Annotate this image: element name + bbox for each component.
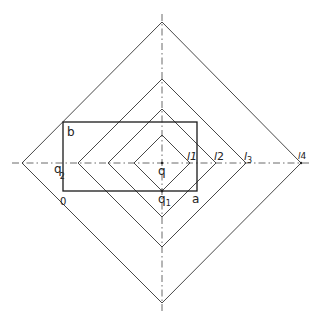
overlay-rectangle <box>63 122 197 191</box>
point-l4 <box>300 162 302 164</box>
label-l3-sub: 3 <box>247 156 252 165</box>
label-a: a <box>192 193 199 205</box>
label-l1: l1 <box>187 151 197 162</box>
label-q2: q2 <box>54 163 67 178</box>
label-q1: q1 <box>158 193 171 208</box>
label-q: q <box>158 165 166 177</box>
label-l2: l2 <box>214 151 224 162</box>
label-l2-sub: 2 <box>217 150 224 163</box>
label-o: 0 <box>60 197 66 207</box>
label-q1-base: q <box>158 192 166 206</box>
label-l4: l4 <box>298 152 306 161</box>
label-q1-sub: 1 <box>166 199 171 208</box>
label-l4-sub: 4 <box>301 151 307 161</box>
diagram-figure: b q q1 q2 a 0 l1 l2 l3 l4 <box>0 0 323 322</box>
label-l3: l3 <box>244 151 252 165</box>
label-q2-sub: 2 <box>60 172 65 181</box>
label-b: b <box>67 126 75 138</box>
diagram-canvas <box>0 0 323 322</box>
